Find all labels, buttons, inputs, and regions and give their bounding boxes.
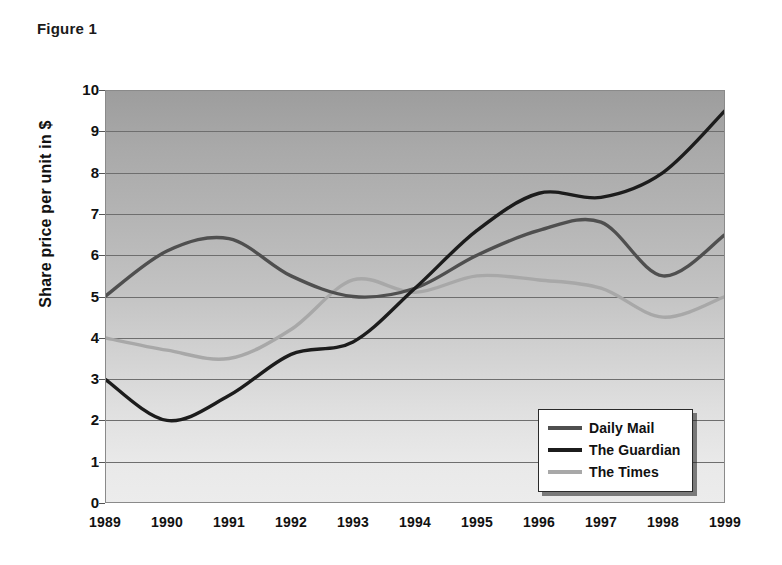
figure-container: Figure 1 Share price per unit in $ 01234…: [0, 0, 782, 565]
y-axis-tick-mark: [99, 462, 105, 463]
legend-color-swatch: [548, 426, 582, 430]
y-axis-tick-label: 1: [65, 453, 99, 470]
y-axis-tick-label: 5: [65, 288, 99, 305]
y-axis-tick-label: 10: [65, 81, 99, 98]
y-axis-tick-mark: [99, 214, 105, 215]
y-axis-tick-label: 9: [65, 122, 99, 139]
series-line-daily-mail: [105, 219, 725, 297]
x-axis-tick-labels: 1989199019911992199319941995199619971998…: [105, 514, 725, 538]
y-axis-title: Share price per unit in $: [37, 64, 55, 364]
figure-caption: Figure 1: [37, 20, 97, 37]
y-axis-tick-label: 8: [65, 164, 99, 181]
legend-item-label: Daily Mail: [589, 420, 655, 436]
legend-item-label: The Guardian: [589, 442, 680, 458]
x-axis-tick-label: 1993: [323, 514, 383, 530]
x-axis-tick-label: 1997: [571, 514, 631, 530]
y-axis-tick-mark: [99, 338, 105, 339]
y-axis-tick-labels: 012345678910: [59, 90, 99, 503]
y-axis-tick-mark: [99, 173, 105, 174]
y-axis-tick-label: 4: [65, 329, 99, 346]
x-axis-tick-label: 1996: [509, 514, 569, 530]
series-line-the-guardian: [105, 111, 725, 421]
legend-item[interactable]: Daily Mail: [548, 417, 680, 439]
x-axis-tick-label: 1992: [261, 514, 321, 530]
chart-legend: Daily MailThe GuardianThe Times: [538, 409, 693, 492]
x-axis-tick-label: 1990: [137, 514, 197, 530]
y-axis-tick-mark: [99, 297, 105, 298]
x-axis-tick-label: 1995: [447, 514, 507, 530]
y-axis-tick-label: 0: [65, 494, 99, 511]
y-axis-tick-mark: [99, 420, 105, 421]
y-axis-tick-mark: [99, 131, 105, 132]
legend-item-label: The Times: [589, 464, 659, 480]
y-axis-tick-label: 6: [65, 246, 99, 263]
x-axis-tick-label: 1999: [695, 514, 755, 530]
x-axis-tick-label: 1989: [75, 514, 135, 530]
legend-item[interactable]: The Guardian: [548, 439, 680, 461]
x-axis-tick-label: 1994: [385, 514, 445, 530]
y-axis-tick-mark: [99, 90, 105, 91]
y-axis-tick-mark: [99, 255, 105, 256]
legend-item[interactable]: The Times: [548, 461, 680, 483]
legend-color-swatch: [548, 470, 582, 474]
y-axis-tick-label: 7: [65, 205, 99, 222]
x-axis-tick-label: 1991: [199, 514, 259, 530]
y-axis-tick-mark: [99, 379, 105, 380]
y-axis-tick-label: 2: [65, 411, 99, 428]
y-axis-tick-label: 3: [65, 370, 99, 387]
x-axis-tick-label: 1998: [633, 514, 693, 530]
y-axis-tick-mark: [99, 503, 105, 504]
legend-color-swatch: [548, 448, 582, 452]
